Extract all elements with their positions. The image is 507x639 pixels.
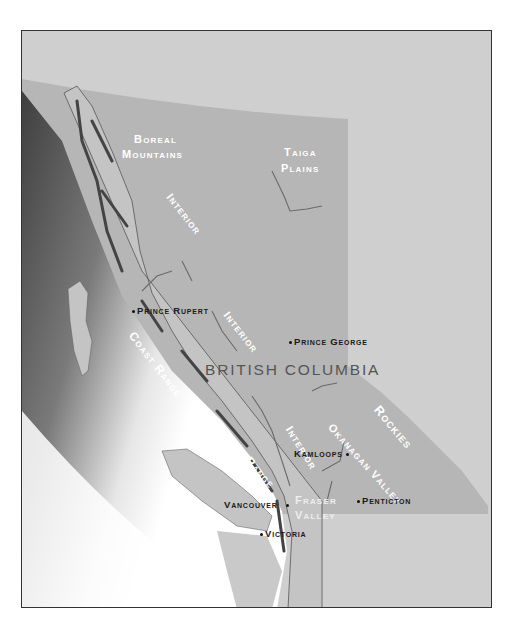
- city-label-kamloops: Kamloops: [294, 448, 343, 459]
- city-label-penticton: Penticton: [362, 495, 411, 506]
- region-label-fraser-2: Valley: [295, 509, 336, 521]
- region-label-fraser-1: Fraser: [295, 494, 337, 506]
- city-dot-vancouver: [286, 504, 289, 507]
- region-label-boreal-2: Mountains: [122, 148, 183, 160]
- map-graphic: [22, 31, 492, 608]
- region-label-taiga-2: Plains: [281, 162, 320, 174]
- city-dot-prince-rupert: [132, 310, 135, 313]
- city-label-prince-george: Prince George: [294, 336, 368, 347]
- city-label-vancouver: Vancouver: [224, 499, 278, 510]
- region-label-taiga-1: Taiga: [284, 146, 317, 158]
- city-label-prince-rupert: Prince Rupert: [137, 305, 209, 316]
- region-label-boreal-1: Boreal: [134, 133, 177, 145]
- city-label-victoria: Victoria: [265, 528, 306, 539]
- city-dot-victoria: [260, 533, 263, 536]
- city-dot-penticton: [357, 500, 360, 503]
- map-frame: Boreal Mountains Taiga Plains Interior I…: [21, 30, 492, 608]
- city-dot-kamloops: [346, 453, 349, 456]
- province-label: BRITISH COLUMBIA: [205, 361, 380, 379]
- city-dot-prince-george: [289, 341, 292, 344]
